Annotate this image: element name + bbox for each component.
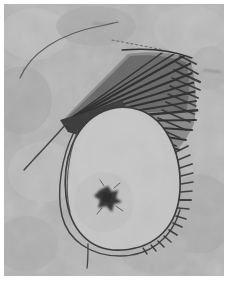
illustration-plate — [4, 4, 224, 276]
figure-root: Scanned pen-and-ink illustration halfton… — [0, 0, 228, 284]
illustration-canvas — [4, 4, 224, 276]
scan-grain-overlay — [4, 4, 224, 276]
